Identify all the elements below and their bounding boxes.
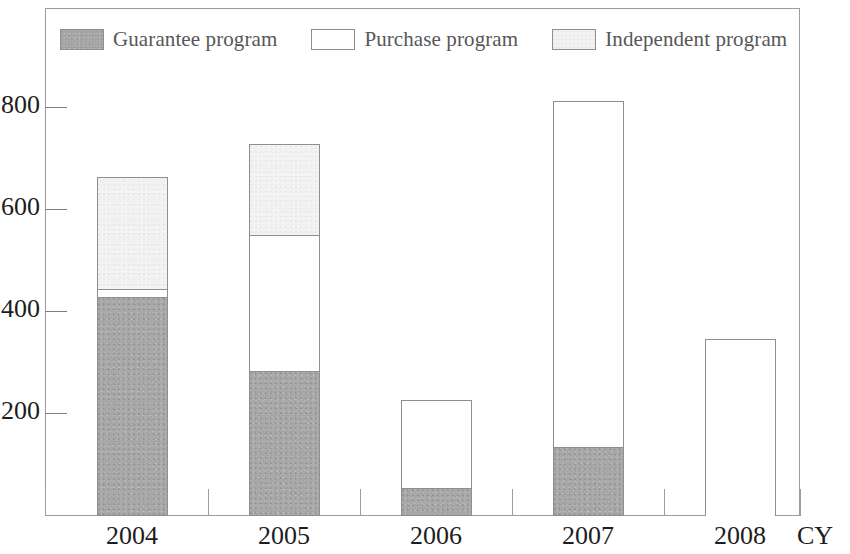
bar-segment-guarantee[interactable] [249, 371, 320, 516]
bar-series-group [45, 8, 800, 516]
x-axis-title: CY [797, 521, 833, 551]
bar-segment-purchase[interactable] [97, 289, 168, 297]
x-axis-divider [45, 489, 46, 516]
x-axis-divider [360, 489, 361, 516]
x-axis-tick-label-2008: 2008 [680, 521, 800, 551]
x-axis-divider [664, 489, 665, 516]
y-axis-tick-label: 200 [0, 398, 40, 424]
bar-segment-independent[interactable] [97, 177, 168, 289]
bar-segment-purchase[interactable] [705, 339, 776, 516]
bar-2008[interactable] [705, 339, 776, 516]
bar-segment-guarantee[interactable] [97, 297, 168, 516]
bar-2006[interactable] [401, 400, 472, 516]
bar-2007[interactable] [553, 101, 624, 516]
x-axis-tick-label-2006: 2006 [376, 521, 496, 551]
bar-segment-guarantee[interactable] [553, 447, 624, 516]
x-axis-divider [512, 489, 513, 516]
bar-segment-guarantee[interactable] [401, 488, 472, 516]
x-axis-tick-label-2005: 2005 [224, 521, 344, 551]
x-axis-tick-label-2007: 2007 [528, 521, 648, 551]
y-axis-tick-label: 800 [0, 92, 40, 118]
bar-segment-purchase[interactable] [553, 101, 624, 447]
bar-segment-independent[interactable] [249, 144, 320, 235]
bar-segment-purchase[interactable] [401, 400, 472, 488]
x-axis-divider [800, 489, 801, 516]
y-axis-tick-label: 600 [0, 194, 40, 220]
bar-segment-purchase[interactable] [249, 235, 320, 371]
x-axis-divider [208, 489, 209, 516]
x-axis-tick-label-2004: 2004 [72, 521, 192, 551]
y-axis-tick-label: 400 [0, 296, 40, 322]
stacked-bar-chart: Guarantee program Purchase program Indep… [0, 0, 850, 554]
bar-2005[interactable] [249, 144, 320, 516]
bar-2004[interactable] [97, 177, 168, 516]
